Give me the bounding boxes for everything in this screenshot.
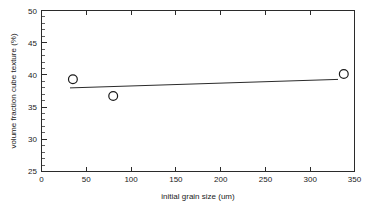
y-axis-title: volume fraction cube texture (%) — [9, 33, 18, 148]
data-point — [339, 70, 348, 79]
y-tick-label: 25 — [28, 167, 37, 176]
data-point — [109, 92, 118, 101]
chart-figure: 0 50 100 150 200 250 300 350 25 30 35 40… — [0, 0, 381, 206]
x-axis-ticks — [42, 11, 355, 172]
plot-frame — [42, 11, 355, 172]
x-tick-label: 300 — [304, 175, 318, 184]
x-tick-label: 250 — [259, 175, 273, 184]
y-tick-label: 35 — [28, 103, 37, 112]
y-tick-labels: 25 30 35 40 45 50 — [28, 7, 37, 177]
scatter-plot: 0 50 100 150 200 250 300 350 25 30 35 40… — [0, 0, 381, 206]
y-tick-label: 45 — [28, 39, 37, 48]
y-tick-label: 50 — [28, 7, 37, 16]
y-tick-label: 30 — [28, 135, 37, 144]
y-tick-label: 40 — [28, 71, 37, 80]
x-axis-title: initial grain size (um) — [161, 192, 235, 201]
data-point — [69, 75, 78, 84]
x-tick-label: 0 — [39, 175, 44, 184]
x-tick-label: 350 — [348, 175, 362, 184]
x-tick-label: 50 — [82, 175, 91, 184]
x-tick-label: 100 — [124, 175, 138, 184]
trend-line — [70, 79, 338, 88]
y-axis-ticks — [42, 11, 47, 172]
x-tick-label: 150 — [169, 175, 183, 184]
x-tick-labels: 0 50 100 150 200 250 300 350 — [39, 175, 361, 184]
x-tick-label: 200 — [214, 175, 228, 184]
